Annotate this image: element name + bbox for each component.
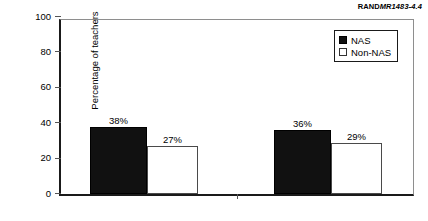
bar-chart-figure: RANDMR1483-4.4 Percentage of teachers 02…: [0, 0, 428, 221]
outlined-square-icon: [339, 48, 347, 56]
y-axis-tick: 0: [55, 193, 61, 194]
x-axis-group-label: 1999: [317, 220, 338, 221]
source-credit: RANDMR1483-4.4: [358, 2, 422, 11]
y-axis-tick-label: 100: [35, 11, 51, 22]
legend-item-label: Non-NAS: [351, 47, 391, 58]
rand-logo-text: RAND: [358, 2, 380, 11]
legend-item: Non-NAS: [339, 46, 391, 58]
legend-item-label: NAS: [351, 35, 371, 46]
legend-item: NAS: [339, 34, 391, 46]
y-axis-tick: 60: [55, 87, 61, 88]
bar-value-label: 36%: [293, 118, 312, 129]
y-axis-tick-label: 20: [40, 152, 51, 163]
y-axis-tick-label: 0: [46, 188, 51, 199]
y-axis-tick: 100: [55, 16, 61, 17]
filled-square-icon: [339, 36, 347, 44]
y-axis-tick-label: 60: [40, 81, 51, 92]
bar-nonnas-1998: 27%: [147, 146, 198, 194]
y-axis-tick: 20: [55, 158, 61, 159]
x-axis-group-label: 1998: [133, 220, 154, 221]
bar-value-label: 29%: [347, 131, 366, 142]
y-axis-tick-label: 80: [40, 46, 51, 57]
bar-value-label: 38%: [109, 115, 128, 126]
y-axis-title: Percentage of teachers: [89, 0, 100, 137]
y-axis-tick: 40: [55, 122, 61, 123]
y-axis-tick: 80: [55, 51, 61, 52]
bar-nonnas-1999: 29%: [331, 143, 382, 194]
y-axis-tick-label: 40: [40, 117, 51, 128]
bar-value-label: 27%: [163, 134, 182, 145]
chart-legend: NASNon-NAS: [334, 30, 398, 62]
document-number: MR1483-4.4: [380, 2, 422, 11]
bar-nas-1999: 36%: [274, 130, 331, 194]
x-axis-separator-tick: [237, 194, 238, 199]
bar-nas-1998: 38%: [90, 127, 147, 194]
